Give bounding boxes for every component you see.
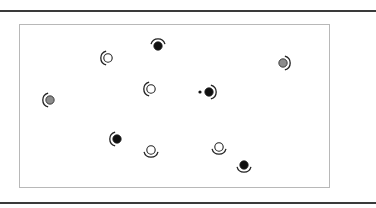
dot-marker-icon [198, 90, 201, 93]
symbol-white-arc-bottom-icon [144, 146, 158, 157]
symbol-gray-arc-left-icon [43, 93, 54, 107]
symbol-white-arc-left-icon [101, 51, 112, 65]
symbol-black-arc-right-icon [205, 85, 216, 99]
symbol-black-arc-left-icon [110, 132, 121, 146]
symbol-scene [0, 0, 376, 208]
symbol-black-arc-bottom-icon [237, 161, 251, 172]
symbol-gray-arc-right-icon [279, 56, 290, 70]
symbol-white-arc-left-icon [144, 82, 155, 96]
symbol-white-arc-bottom-icon [212, 143, 226, 154]
symbol-black-arc-top-icon [151, 39, 165, 50]
